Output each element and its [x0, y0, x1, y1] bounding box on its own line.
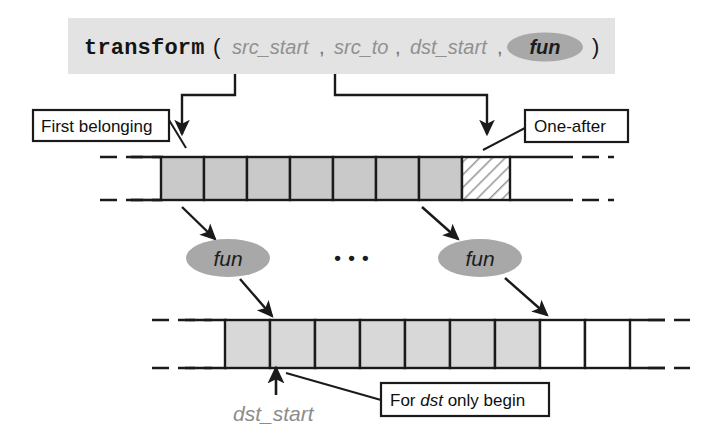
dst-start-label: dst_start: [233, 402, 315, 425]
arrow-source-to-fun-right: [422, 207, 458, 239]
signature-open-paren: (: [213, 34, 221, 59]
signature-comma-2: ,: [395, 36, 401, 58]
callout-one-after-label: One-after: [534, 117, 606, 136]
signature-close-paren: ): [592, 34, 599, 59]
dest-cell: [315, 320, 360, 368]
param-dst-start: dst_start: [410, 36, 488, 58]
dest-cell: [405, 320, 450, 368]
dest-cell: [225, 320, 270, 368]
callout-dst-part-1: For: [390, 391, 420, 410]
signature-comma-1: ,: [319, 36, 325, 58]
connector-src-to: [335, 74, 487, 134]
leader-first-belonging: [169, 120, 186, 148]
dest-cell-empty: [585, 320, 630, 368]
arrow-fun-right-to-dest: [505, 278, 547, 315]
callout-dst-part-3: only begin: [443, 391, 525, 410]
source-cell: [376, 157, 419, 200]
transform-diagram: transform ( src_start , src_to , dst_sta…: [0, 0, 711, 441]
dest-cell: [495, 320, 540, 368]
callout-for-dst-only-begin-label: For dst only begin: [390, 391, 525, 410]
dest-array-cells: [225, 320, 630, 368]
dest-cell: [360, 320, 405, 368]
arrow-source-to-fun-left: [182, 207, 215, 239]
fun-label-left: fun: [213, 247, 242, 270]
diagram-canvas: transform ( src_start , src_to , dst_sta…: [0, 0, 711, 441]
ellipsis-between-funs: • • •: [334, 247, 370, 268]
dest-cell: [450, 320, 495, 368]
callout-dst-part-2: dst: [420, 391, 444, 410]
source-cell: [204, 157, 247, 200]
function-name: transform: [84, 36, 205, 61]
arrow-fun-left-to-dest: [240, 279, 272, 316]
source-array-cells: [161, 157, 510, 200]
connector-src-start: [182, 74, 235, 134]
leader-for-dst-only-begin: [286, 373, 381, 400]
param-src-to: src_to: [334, 36, 388, 58]
callout-first-belonging-label: First belonging: [41, 117, 153, 136]
source-cell: [333, 157, 376, 200]
param-fun-label: fun: [529, 36, 560, 58]
dest-cell-empty: [540, 320, 585, 368]
dest-cell: [270, 320, 315, 368]
source-cell-hatched: [462, 157, 510, 200]
leader-one-after: [483, 128, 525, 150]
source-cell: [161, 157, 204, 200]
param-src-start: src_start: [232, 36, 310, 58]
source-cell: [247, 157, 290, 200]
fun-label-right: fun: [465, 247, 494, 270]
signature-comma-3: ,: [497, 36, 503, 58]
source-cell: [290, 157, 333, 200]
source-cell: [419, 157, 462, 200]
